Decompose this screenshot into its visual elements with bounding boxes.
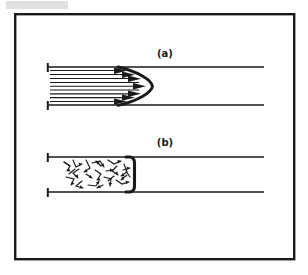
panel-label-a: (a) (157, 48, 173, 59)
flow-diagram: (a) (0, 0, 308, 275)
figure-container: (a) (0, 0, 308, 275)
canvas-background (0, 0, 308, 275)
scan-smudge-artifact (6, 1, 68, 9)
panel-label-b: (b) (157, 137, 173, 148)
